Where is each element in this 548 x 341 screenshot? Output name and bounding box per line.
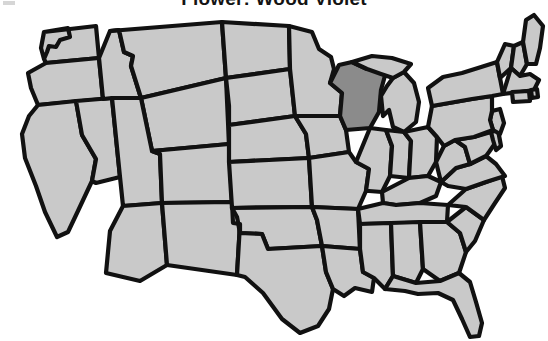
page-title: Flower: Wood Violet	[0, 0, 548, 9]
page-title-clip: Flower: Wood Violet	[0, 0, 548, 9]
state-alabama[interactable]	[391, 222, 423, 283]
state-kentucky[interactable]	[382, 176, 441, 205]
state-connecticut[interactable]	[512, 91, 530, 102]
state-kansas[interactable]	[229, 158, 312, 208]
state-new-mexico[interactable]	[162, 202, 240, 275]
united-states-map[interactable]	[0, 6, 548, 341]
page-root: Flower: Wood Violet	[0, 0, 548, 341]
state-maine[interactable]	[523, 15, 543, 64]
us-map-svg[interactable]	[0, 6, 548, 341]
state-michigan[interactable]	[381, 72, 419, 132]
state-rhode-island[interactable]	[531, 89, 538, 98]
state-florida[interactable]	[385, 273, 482, 337]
state-ohio[interactable]	[404, 127, 437, 178]
state-colorado[interactable]	[152, 144, 232, 203]
state-arizona[interactable]	[106, 203, 167, 281]
state-shapes	[22, 15, 543, 337]
